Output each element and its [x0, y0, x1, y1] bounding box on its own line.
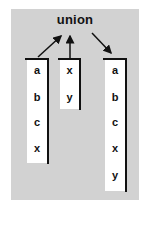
input-list-1: a b c x: [27, 60, 47, 163]
result-list: a b c x y: [105, 60, 125, 191]
list-item: a: [105, 64, 125, 76]
list-item: a: [27, 64, 47, 76]
input-list-2: x y: [60, 60, 79, 109]
list-item: x: [60, 64, 79, 76]
list-item: y: [105, 169, 125, 181]
list-item: c: [27, 116, 47, 128]
list-item: b: [27, 91, 47, 103]
list-item: y: [60, 91, 79, 103]
list-item: x: [27, 142, 47, 154]
arrow-left-icon: [38, 36, 61, 57]
list-item: x: [105, 142, 125, 154]
arrow-right-icon: [92, 33, 111, 53]
list-item: c: [105, 116, 125, 128]
list-item: b: [105, 91, 125, 103]
